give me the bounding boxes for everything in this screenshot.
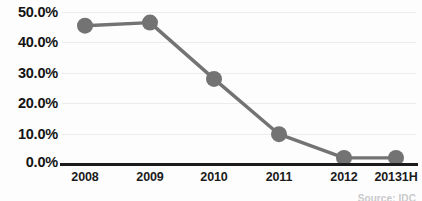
x-axis-tick-label: 2012 bbox=[330, 171, 357, 184]
x-axis-tick-label: 2009 bbox=[136, 171, 163, 184]
x-axis-tick-label: 2010 bbox=[200, 171, 227, 184]
x-axis-baseline bbox=[60, 163, 418, 166]
x-axis-tick-label: 2008 bbox=[71, 171, 98, 184]
data-point-marker bbox=[142, 15, 158, 31]
x-axis-tick-label: 2011 bbox=[266, 171, 293, 184]
data-point-marker bbox=[271, 126, 287, 142]
data-point-marker bbox=[206, 71, 222, 87]
series-markers bbox=[77, 15, 404, 166]
x-axis-tick-label: 20131H bbox=[374, 171, 417, 184]
data-point-marker bbox=[77, 18, 93, 34]
series-line bbox=[85, 23, 396, 158]
source-note: Source: IDC bbox=[358, 193, 416, 201]
line-chart: 50.0% 40.0% 30.0% 20.0% 10.0% 0.0% 2008 … bbox=[0, 0, 422, 201]
